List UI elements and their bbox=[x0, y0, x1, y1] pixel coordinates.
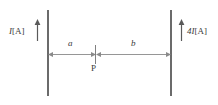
point-p-label: P bbox=[91, 63, 96, 73]
arrow-up-icon bbox=[34, 19, 41, 41]
point-p-tick bbox=[95, 45, 96, 64]
segment-b-label: b bbox=[131, 38, 136, 48]
current-unit-right: [A] bbox=[195, 26, 208, 36]
current-label-left: I[A] bbox=[9, 26, 25, 36]
segment-a-label: a bbox=[68, 38, 73, 48]
arrow-up-icon bbox=[178, 19, 185, 41]
current-label-right: 4I[A] bbox=[187, 26, 207, 36]
current-unit-left: [A] bbox=[12, 26, 25, 36]
dimension-line bbox=[48, 51, 171, 58]
wire-current-diagram: I[A] 4I[A] P a b bbox=[0, 0, 218, 105]
current-symbol-right: 4I bbox=[187, 26, 195, 36]
